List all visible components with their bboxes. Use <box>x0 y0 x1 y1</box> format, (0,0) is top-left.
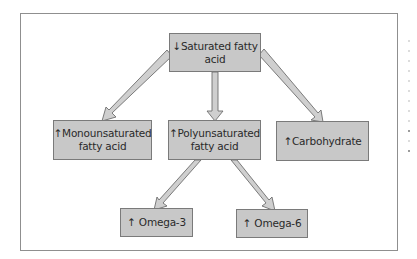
dot <box>408 120 410 122</box>
node-label-line2: fatty acid <box>169 140 260 153</box>
dot <box>408 110 410 112</box>
node-label-line2: fatty acid <box>53 140 151 153</box>
node-label: ↑ Omega-6 <box>243 217 302 230</box>
node-carbohydrate: ↑Carbohydrate <box>276 121 369 161</box>
dot <box>408 70 410 72</box>
node-label: ↑ Omega-3 <box>127 216 186 229</box>
node-monounsaturated-fatty-acid: ↑Monounsaturated fatty acid <box>53 120 152 160</box>
dot <box>408 130 410 132</box>
down-arrow-icon: ↓ <box>172 40 181 52</box>
up-arrow-icon: ↑ <box>283 135 292 147</box>
dot <box>408 40 410 42</box>
node-polyunsaturated-fatty-acid: ↑Polyunsaturated fatty acid <box>168 120 261 160</box>
dot <box>408 150 410 152</box>
dot <box>408 140 410 142</box>
node-omega-3: ↑ Omega-3 <box>120 208 193 237</box>
node-label: ↓Saturated fatty <box>172 40 257 53</box>
dot <box>408 100 410 102</box>
node-label: ↑Monounsaturated <box>53 127 151 140</box>
node-saturated-fatty-acid: ↓Saturated fatty acid <box>169 33 261 72</box>
margin-dots <box>408 40 412 160</box>
dot <box>408 90 410 92</box>
node-label: ↑Polyunsaturated <box>169 127 260 140</box>
up-arrow-icon: ↑ <box>127 216 136 228</box>
up-arrow-icon: ↑ <box>243 217 252 229</box>
dot <box>408 60 410 62</box>
dot <box>408 80 410 82</box>
node-label: ↑Carbohydrate <box>283 135 361 148</box>
up-arrow-icon: ↑ <box>169 127 178 139</box>
up-arrow-icon: ↑ <box>53 127 62 139</box>
node-omega-6: ↑ Omega-6 <box>236 209 308 238</box>
dot <box>408 50 410 52</box>
node-label-line2: acid <box>172 53 257 66</box>
